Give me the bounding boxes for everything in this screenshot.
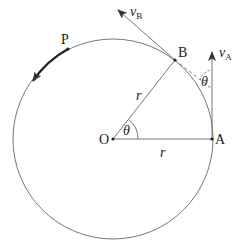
label-radius-OB: r	[136, 88, 142, 103]
label-A: A	[215, 132, 226, 147]
label-angle-O: θ	[123, 123, 130, 138]
label-radius-OA: r	[160, 145, 166, 160]
label-angle-velocities: θ	[201, 74, 208, 89]
label-O: O	[99, 132, 109, 147]
circular-motion-diagram: O A B P r r θ θ vB vA	[0, 0, 243, 252]
label-P: P	[61, 32, 69, 47]
angle-arc-O	[129, 119, 139, 139]
point-P	[66, 47, 69, 50]
point-O	[111, 137, 114, 140]
velocity-vector-B	[118, 10, 175, 60]
motion-direction-arrow	[33, 49, 68, 81]
label-B: B	[178, 45, 187, 60]
label-velocity-B: vB	[130, 4, 142, 21]
point-A	[210, 137, 213, 140]
label-velocity-A: vA	[219, 45, 232, 62]
point-B	[173, 58, 176, 61]
